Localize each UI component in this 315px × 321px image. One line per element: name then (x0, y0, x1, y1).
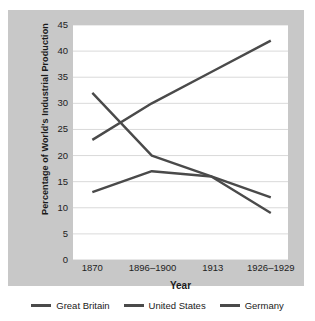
y-tick-label: 45 (46, 20, 68, 30)
x-tick-label: 1870 (82, 262, 103, 273)
y-tick-label: 0 (46, 255, 68, 265)
legend-line-icon (124, 304, 144, 307)
chart-legend: Great Britain United States Germany (0, 294, 315, 316)
legend-item-label: United States (149, 300, 206, 311)
series-lines (92, 41, 270, 213)
y-tick-label: 35 (46, 72, 68, 82)
gridlines (73, 25, 288, 260)
y-tick-label: 15 (46, 177, 68, 187)
x-tick-label: 1926–1929 (247, 262, 295, 273)
chart-canvas (73, 25, 288, 260)
legend-item-label: Germany (245, 300, 284, 311)
legend-item-great-britain: Great Britain (31, 300, 109, 311)
x-tick-label: 1913 (202, 262, 223, 273)
chart-panel: Percentage of World's Industrial Product… (8, 10, 304, 286)
x-tick-label: 1896–1900 (129, 262, 177, 273)
legend-line-icon (220, 304, 240, 307)
plot-area (73, 25, 288, 260)
y-tick-label: 30 (46, 99, 68, 109)
y-tick-label: 40 (46, 46, 68, 56)
legend-item-label: Great Britain (56, 300, 109, 311)
chart-figure: Percentage of World's Industrial Product… (0, 0, 315, 321)
legend-item-germany: Germany (220, 300, 284, 311)
y-tick-label: 25 (46, 125, 68, 135)
series-line (92, 171, 270, 213)
x-axis-title: Year (73, 280, 288, 291)
y-tick-label: 20 (46, 151, 68, 161)
y-tick-label: 10 (46, 203, 68, 213)
series-line (92, 41, 270, 140)
y-tick-label: 5 (46, 229, 68, 239)
x-axis-tick-labels: 1870 1896–1900 1913 1926–1929 (73, 262, 288, 278)
y-axis-tick-labels: 45 40 35 30 25 20 15 10 5 0 (40, 25, 68, 260)
legend-item-united-states: United States (124, 300, 206, 311)
legend-line-icon (31, 304, 51, 307)
